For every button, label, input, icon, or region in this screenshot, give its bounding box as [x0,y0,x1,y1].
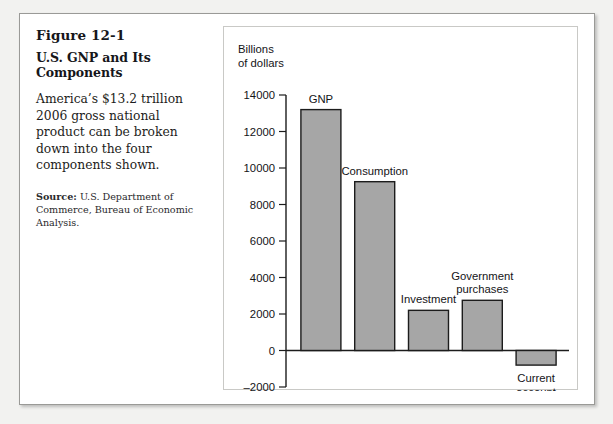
y-axis-tick-label: 12000 [244,126,275,138]
figure-frame: Figure 12-1 U.S. GNP and Its Components … [19,13,595,405]
figure-source: Source: U.S. Department of Commerce, Bur… [36,190,202,229]
figure-source-label: Source: [36,191,77,202]
y-axis-tick-label: 10000 [244,162,275,174]
y-axis-tick-label: –2000 [244,381,275,391]
y-axis-tick-label: 14000 [244,89,275,101]
y-axis-tick-label: 0 [269,345,275,357]
y-axis-tick-label: 6000 [250,235,275,247]
y-axis-tick-label: 8000 [250,199,275,211]
figure-root: Figure 12-1 U.S. GNP and Its Components … [0,0,613,424]
bar [409,310,449,350]
y-axis-title-line2: of dollars [238,57,284,69]
bar-label: Government [451,270,514,282]
chart-svg: Billionsof dollars1400012000100008000600… [224,27,579,391]
bar-label: account [516,386,556,391]
bar [462,300,502,350]
figure-description: America’s $13.2 trillion 2006 gross nati… [36,91,202,174]
figure-caption-column: Figure 12-1 U.S. GNP and Its Components … [20,14,216,404]
y-axis-tick-label: 4000 [250,272,275,284]
y-axis-title-line1: Billions [238,43,274,55]
bar-label: Current [517,372,556,384]
bar [301,110,341,351]
bar-label: GNP [309,93,333,105]
bar-label: Consumption [341,165,408,177]
bar [355,182,395,351]
bar-label: Investment [401,293,457,305]
figure-number: Figure 12-1 [36,27,202,43]
chart-panel: Billionsof dollars1400012000100008000600… [223,26,578,390]
bar-chart: Billionsof dollars1400012000100008000600… [224,27,577,389]
bar [516,351,556,366]
figure-title: U.S. GNP and Its Components [36,50,202,80]
bar-label: purchases [456,283,508,295]
y-axis-tick-label: 2000 [250,308,275,320]
